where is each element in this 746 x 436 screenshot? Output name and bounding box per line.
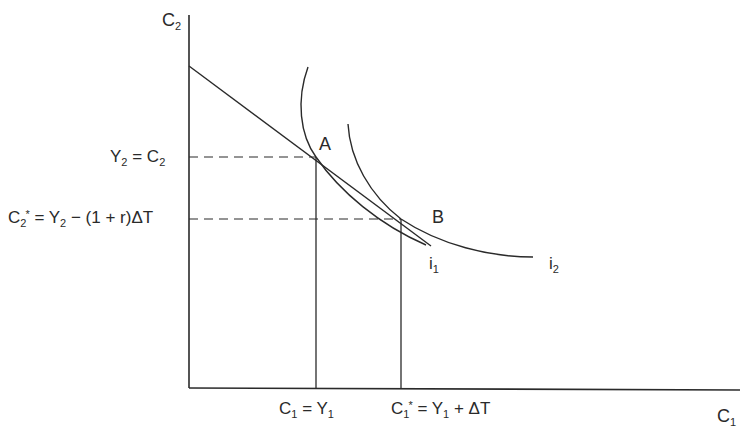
x-axis-label: C1: [717, 407, 736, 428]
curve-i1-label: i1: [429, 255, 439, 275]
point-b-label: B: [432, 208, 444, 226]
point-a-label: A: [319, 135, 331, 153]
indifference-curve-i1: [301, 67, 426, 245]
indifference-curve-i2: [348, 124, 533, 257]
y-tick-label-c2-star: C2* = Y2 − (1 + r)ΔT: [8, 209, 153, 229]
consumption-diagram: C2 C1 Y2 = C2 C2* = Y2 − (1 + r)ΔT C1 = …: [0, 0, 746, 436]
x-axis: [189, 388, 740, 390]
y-tick-label-y2-eq-c2: Y2 = C2: [110, 148, 165, 168]
x-tick-label-c1-eq-y1: C1 = Y1: [279, 400, 334, 420]
y-axis-label: C2: [162, 11, 181, 32]
curve-i2-label: i2: [549, 255, 559, 275]
x-tick-label-c1-star: C1* = Y1 + ΔT: [391, 400, 490, 420]
